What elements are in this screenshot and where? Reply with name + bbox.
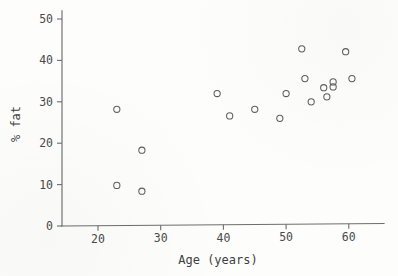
data-point <box>283 90 289 96</box>
data-point <box>139 188 145 194</box>
plot-area: 010203040502030405060 Age (years) % fat <box>0 0 398 276</box>
x-tick-label: 60 <box>342 230 356 244</box>
y-axis-title: % fat <box>9 106 23 142</box>
axis-tick-labels-group: 010203040502030405060 <box>39 12 356 246</box>
x-tick-label: 50 <box>279 230 293 244</box>
data-point <box>299 46 305 52</box>
y-tick-label: 20 <box>39 136 53 150</box>
data-point <box>139 147 145 153</box>
scatter-chart-figure: 010203040502030405060 Age (years) % fat <box>0 0 398 276</box>
y-tick-label: 50 <box>39 12 53 26</box>
axes-group <box>62 11 384 226</box>
data-point <box>114 106 120 112</box>
x-tick-label: 30 <box>154 231 168 245</box>
axis-ticks-group <box>57 19 349 231</box>
data-point <box>308 99 314 105</box>
data-point <box>321 85 327 91</box>
data-point <box>214 90 220 96</box>
data-point <box>302 76 308 82</box>
data-point <box>343 49 349 55</box>
data-points-group <box>114 46 355 195</box>
x-tick-label: 40 <box>216 231 230 245</box>
data-point <box>114 182 120 188</box>
y-tick-label: 0 <box>46 219 53 233</box>
data-point <box>252 106 258 112</box>
y-tick-label: 10 <box>39 178 53 192</box>
y-tick-label: 30 <box>39 95 53 109</box>
data-point <box>349 76 355 82</box>
x-tick-label: 20 <box>91 232 105 246</box>
data-point <box>227 113 233 119</box>
data-point <box>324 94 330 100</box>
data-point <box>277 115 283 121</box>
y-tick-label: 40 <box>39 53 53 67</box>
x-axis-title: Age (years) <box>178 253 257 267</box>
